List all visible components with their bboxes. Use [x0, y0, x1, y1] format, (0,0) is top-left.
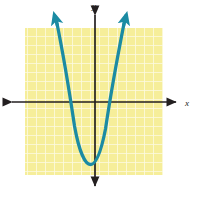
graph-figure: x y	[0, 0, 197, 197]
y-axis-label: y	[92, 2, 96, 11]
plot-canvas	[0, 0, 197, 197]
x-axis-label: x	[185, 99, 189, 108]
